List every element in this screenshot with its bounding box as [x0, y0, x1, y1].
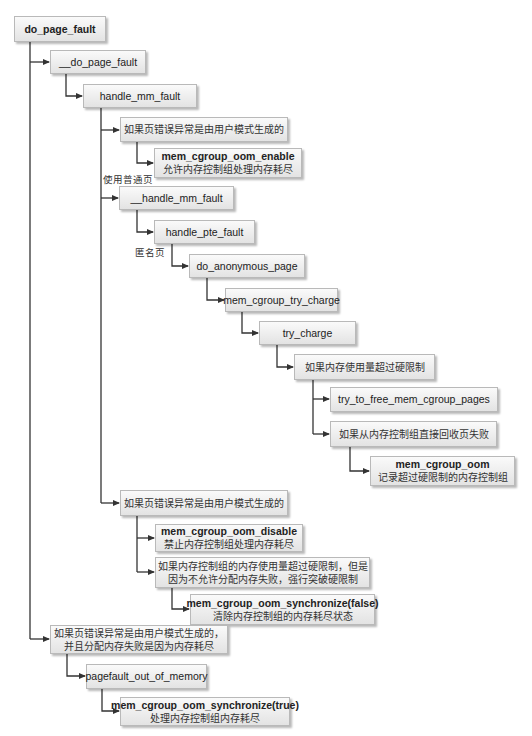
- node-mem-cgroup-oom-synchronize-false: mem_cgroup_oom_synchronize(false) 清除内存控制…: [190, 594, 375, 625]
- function-name: handle_mm_fault: [100, 90, 181, 103]
- function-description: 清除内存控制组的内存耗尽状态: [213, 610, 353, 623]
- node-mem-cgroup-oom-disable: mem_cgroup_oom_disable 禁止内存控制组处理内存耗尽: [155, 524, 303, 552]
- node-mem-cgroup-oom: mem_cgroup_oom 记录超过硬限制的内存控制组: [370, 456, 515, 486]
- function-name: mem_cgroup_try_charge: [223, 294, 340, 307]
- node-mem-cgroup-oom-synchronize-true: mem_cgroup_oom_synchronize(true) 处理内存控制组…: [120, 697, 290, 726]
- node-do-page-fault: do_page_fault: [14, 16, 106, 42]
- node-try-to-free-mem-cgroup-pages: try_to_free_mem_cgroup_pages: [330, 387, 498, 412]
- edge-label-normal-page: 使用普通页: [103, 172, 153, 186]
- function-name: mem_cgroup_oom_synchronize(false): [187, 597, 379, 610]
- node-mem-cgroup-oom-enable: mem_cgroup_oom_enable 允许内存控制组处理内存耗尽: [154, 148, 302, 178]
- function-name: __do_page_fault: [59, 56, 137, 69]
- node-mem-cgroup-try-charge: mem_cgroup_try_charge: [225, 288, 338, 312]
- node-cond-exceed-hard-limit: 如果内存使用量超过硬限制: [294, 354, 435, 380]
- function-name: do_page_fault: [24, 23, 95, 36]
- function-name: handle_pte_fault: [166, 226, 244, 239]
- node-cond-reclaim-failed: 如果从内存控制组直接回收页失败: [330, 421, 497, 447]
- condition-text: 如果页错误异常是由用户模式生成的: [124, 497, 284, 510]
- function-name: do_anonymous_page: [196, 260, 297, 273]
- node-cond-user-mode-1: 如果页错误异常是由用户模式生成的: [120, 117, 288, 142]
- function-description: 禁止内存控制组处理内存耗尽: [164, 538, 294, 551]
- function-name: mem_cgroup_oom_enable: [161, 150, 294, 163]
- condition-text: 如果从内存控制组直接回收页失败: [339, 428, 489, 441]
- node-pagefault-out-of-memory: pagefault_out_of_memory: [86, 664, 207, 689]
- function-name: mem_cgroup_oom_synchronize(true): [111, 699, 299, 712]
- node-cond-breach-limit: 如果内存控制组的内存使用量超过硬限制，但是 因为不允许分配内存失败，强行突破硬限…: [155, 557, 370, 588]
- condition-text-line2: 因为不允许分配内存失败，强行突破硬限制: [168, 573, 358, 586]
- node-handle-mm-fault: handle_mm_fault: [83, 84, 197, 108]
- condition-text-line1: 如果页错误异常是由用户模式生成的，: [54, 627, 224, 640]
- function-name: pagefault_out_of_memory: [86, 670, 208, 683]
- function-description: 允许内存控制组处理内存耗尽: [163, 163, 293, 176]
- node-cond-user-mode-oom: 如果页错误异常是由用户模式生成的， 并且分配内存失败是因为内存耗尽: [50, 625, 228, 654]
- node-handle-pte-fault: handle_pte_fault: [154, 220, 255, 244]
- condition-text: 如果页错误异常是由用户模式生成的: [124, 123, 284, 136]
- node-try-charge: try_charge: [259, 321, 356, 345]
- function-name: __handle_mm_fault: [130, 192, 222, 205]
- function-name: mem_cgroup_oom: [396, 458, 490, 471]
- condition-text-line1: 如果内存控制组的内存使用量超过硬限制，但是: [158, 560, 368, 573]
- condition-text-line2: 并且分配内存失败是因为内存耗尽: [64, 640, 214, 653]
- node-__do-page-fault: __do_page_fault: [50, 50, 146, 74]
- node-__handle-mm-fault: __handle_mm_fault: [119, 186, 234, 210]
- node-cond-user-mode-2: 如果页错误异常是由用户模式生成的: [120, 490, 288, 516]
- function-description: 记录超过硬限制的内存控制组: [378, 471, 508, 484]
- condition-text: 如果内存使用量超过硬限制: [305, 361, 425, 374]
- edge-label-anonymous-page: 匿名页: [135, 245, 165, 259]
- function-description: 处理内存控制组内存耗尽: [150, 712, 260, 725]
- function-name: mem_cgroup_oom_disable: [161, 525, 297, 538]
- function-name: try_charge: [283, 327, 333, 340]
- function-name: try_to_free_mem_cgroup_pages: [338, 393, 490, 406]
- node-do-anonymous-page: do_anonymous_page: [189, 254, 305, 278]
